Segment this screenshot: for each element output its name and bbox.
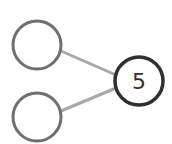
input-node-bottom — [13, 93, 61, 141]
edge-bottom-to-output — [61, 88, 116, 111]
input-node-top — [13, 21, 61, 69]
edge-top-to-output — [61, 51, 116, 75]
output-node-label: 5 — [132, 69, 146, 94]
diagram-canvas: 5 — [0, 0, 172, 144]
